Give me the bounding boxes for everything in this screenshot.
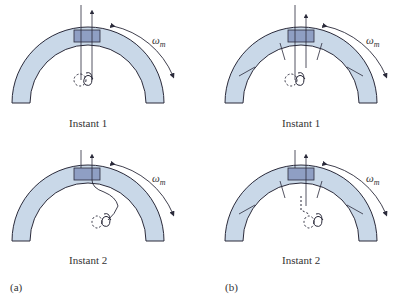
omega-label-a2: ωm (152, 172, 166, 187)
coil (84, 73, 93, 86)
caption-b-instant-1: Instant 1 (282, 117, 320, 129)
panel-label-a: (a) (10, 281, 22, 293)
caption-b-instant-2: Instant 2 (282, 254, 320, 266)
panel-label-b: (b) (225, 281, 238, 293)
stator-block (74, 30, 100, 42)
ring-b1 (225, 5, 386, 103)
caption-a-instant-2: Instant 2 (69, 254, 107, 266)
omega-label-b2: ωm (366, 172, 380, 187)
ring-a2 (12, 150, 173, 241)
omega-label-b1: ωm (366, 34, 380, 49)
ring-b2 (225, 150, 386, 241)
caption-a-instant-1: Instant 1 (69, 117, 107, 129)
omega-label-a1: ωm (152, 34, 166, 49)
ring-a1 (12, 5, 173, 103)
diagram-canvas (0, 0, 398, 302)
